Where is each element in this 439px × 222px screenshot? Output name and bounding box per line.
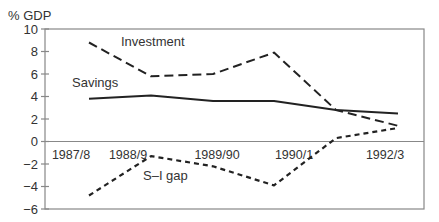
investment-label: Investment (121, 34, 185, 49)
x-axis-labels: 1987/81988/91989/901990/11992/3 (52, 148, 404, 162)
line-chart: % GDP 1086420−2−4−6 1987/81988/91989/901… (0, 0, 439, 222)
x-tick-label: 1988/9 (109, 148, 147, 162)
y-tick-label: −4 (23, 179, 38, 194)
x-tick-label: 1989/90 (194, 148, 239, 162)
y-tick-label: 2 (31, 112, 38, 127)
x-tick-label: 1987/8 (52, 148, 90, 162)
series-lines (89, 43, 398, 196)
plot-frame (45, 29, 424, 209)
x-tick-label: 1990/1 (275, 148, 313, 162)
x-tick-label: 1992/3 (366, 148, 404, 162)
y-tick-label: 6 (31, 67, 38, 82)
y-tick-label: −6 (23, 202, 38, 217)
savings-line (89, 95, 398, 113)
y-tick-label: 4 (31, 89, 38, 104)
investment-line (89, 43, 398, 126)
y-tick-label: 8 (31, 44, 38, 59)
y-tick-label: −2 (23, 157, 38, 172)
s-i-gap-line (89, 128, 398, 196)
savings-label: Savings (72, 75, 119, 90)
y-tick-label: 0 (31, 134, 38, 149)
y-tick-label: 10 (24, 22, 38, 37)
si-gap-label: S–I gap (143, 168, 188, 183)
